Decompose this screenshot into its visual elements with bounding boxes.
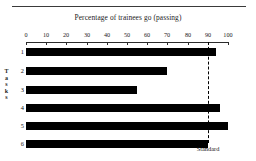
x-tick-label-40: 40 (104, 31, 110, 38)
x-tick-label-20: 20 (63, 31, 69, 38)
y-axis-label-letter-1: a (2, 75, 11, 82)
x-tick-100 (228, 42, 229, 45)
bar-category-label-1: 1 (14, 47, 24, 56)
bar-task-4 (26, 104, 220, 112)
x-tick-20 (66, 42, 67, 45)
bar-task-1 (26, 48, 216, 56)
table-row: 1 (0, 47, 256, 56)
x-tick-label-60: 60 (144, 31, 150, 38)
standard-reference-line (208, 42, 209, 143)
standard-reference-label: Standard (197, 145, 220, 152)
x-tick-30 (87, 42, 88, 45)
x-tick-60 (147, 42, 148, 45)
bar-category-label-4: 4 (14, 103, 24, 112)
bar-task-6 (26, 140, 208, 148)
bar-category-label-6: 6 (14, 139, 24, 148)
x-tick-label-0: 0 (24, 31, 27, 38)
x-tick-50 (127, 42, 128, 45)
x-tick-70 (167, 42, 168, 45)
x-tick-label-50: 50 (124, 31, 130, 38)
plot-area: 0 10 20 30 40 50 60 70 80 90 100 T a s k… (0, 0, 256, 161)
y-axis-label-letter-4: s (2, 94, 11, 101)
bar-task-2 (26, 67, 167, 75)
bar-category-label-3: 3 (14, 85, 24, 94)
x-tick-0 (26, 42, 27, 45)
x-tick-label-100: 100 (223, 31, 232, 38)
bar-category-label-5: 5 (14, 121, 24, 130)
x-tick-label-30: 30 (84, 31, 90, 38)
bar-category-label-2: 2 (14, 66, 24, 75)
table-row: 4 (0, 103, 256, 112)
x-tick-label-90: 90 (205, 31, 211, 38)
bar-task-5 (26, 122, 228, 130)
table-row: 3 (0, 85, 256, 94)
x-tick-label-70: 70 (164, 31, 170, 38)
chart-figure: Percentage of trainees go (passing) 0 10… (0, 0, 256, 161)
x-tick-10 (46, 42, 47, 45)
x-tick-label-80: 80 (185, 31, 191, 38)
x-tick-label-10: 10 (43, 31, 49, 38)
table-row: 5 (0, 121, 256, 130)
x-tick-40 (107, 42, 108, 45)
x-tick-80 (188, 42, 189, 45)
bar-task-3 (26, 86, 137, 94)
table-row: 2 (0, 66, 256, 75)
